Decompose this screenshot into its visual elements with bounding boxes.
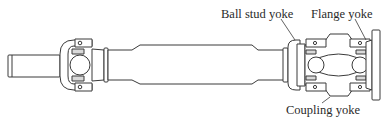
leader-ball-stud-yoke [281, 19, 295, 40]
leader-flange-yoke [355, 19, 366, 40]
front-universal-joint [60, 39, 108, 91]
shaft-tube [108, 45, 288, 84]
propeller-shaft-diagram: Ball stud yoke Flange yoke Coupling yoke [0, 0, 387, 123]
flange-yoke-label: Flange yoke [311, 8, 372, 21]
coupling-yoke-label: Coupling yoke [286, 104, 360, 117]
ball-stud-yoke-label: Ball stud yoke [221, 8, 293, 21]
slip-stub-shaft [8, 55, 60, 77]
coupling-yoke [305, 34, 370, 96]
ball-stud-yoke [288, 40, 305, 90]
